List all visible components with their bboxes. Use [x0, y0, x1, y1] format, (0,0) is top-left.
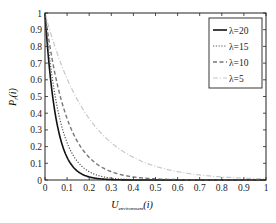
x-tick-label: 0.1: [61, 183, 73, 193]
y-tick-label: 1: [37, 9, 42, 19]
legend: λ=20λ=15λ=10λ=5: [209, 18, 262, 88]
x-tick-label: 0.2: [83, 183, 95, 193]
y-tick-label: 0.5: [30, 92, 42, 102]
legend-label: λ=15: [229, 42, 249, 52]
x-axis-label: Uenvironment(i): [111, 199, 153, 211]
x-tick-label: 0.3: [105, 183, 117, 193]
x-tick-label: 1: [264, 183, 269, 193]
x-tick-label: 0.6: [172, 183, 184, 193]
legend-label: λ=20: [229, 26, 249, 36]
y-tick-label: 0.3: [30, 125, 42, 135]
y-tick-label: 0: [37, 176, 42, 186]
x-tick-label: 0: [43, 183, 48, 193]
y-tick-label: 0.7: [30, 59, 42, 69]
y-tick-label: 0.4: [30, 109, 42, 119]
x-tick-label: 0.8: [216, 183, 228, 193]
legend-label: λ=10: [229, 58, 249, 68]
y-tick-label: 0.6: [30, 75, 42, 85]
y-tick-label: 0.1: [30, 159, 42, 169]
y-tick-label: 0.2: [30, 142, 42, 152]
x-tick-label: 0.7: [194, 183, 206, 193]
x-tick-label: 0.4: [127, 183, 139, 193]
y-tick-label: 0.9: [30, 25, 42, 35]
legend-label: λ=5: [229, 74, 244, 84]
y-axis-label: Pr(i): [7, 87, 19, 107]
x-tick-label: 0.5: [150, 183, 162, 193]
y-tick-label: 0.8: [30, 42, 42, 52]
x-tick-label: 0.9: [238, 183, 250, 193]
chart: 00.10.20.30.40.50.60.70.80.9100.10.20.30…: [0, 0, 276, 223]
